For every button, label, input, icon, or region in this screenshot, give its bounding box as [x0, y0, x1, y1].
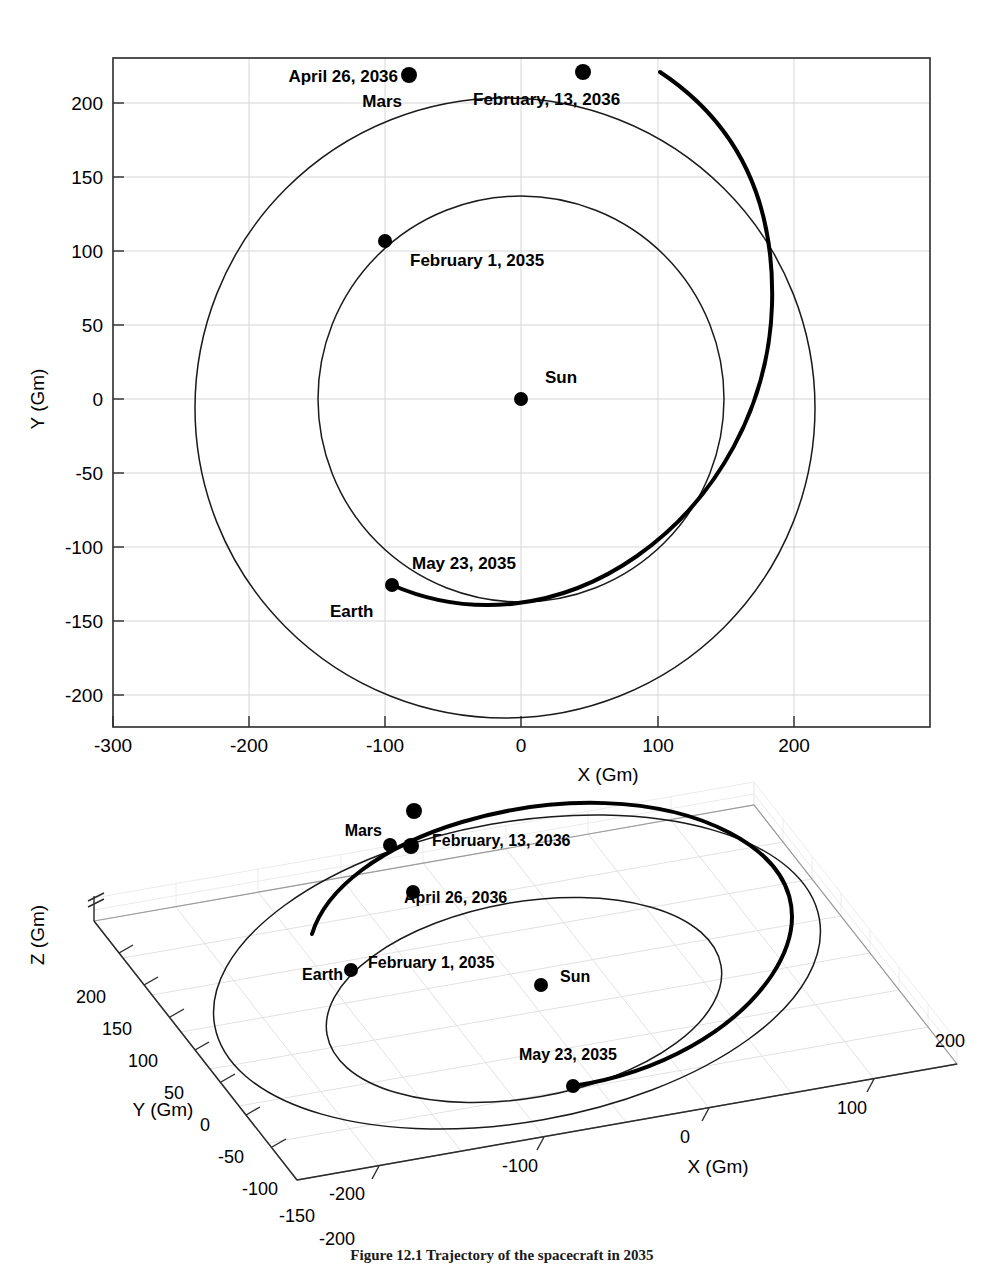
z-axis-label-3d: Z (Gm) — [27, 905, 48, 965]
x-tick-label-3d: -200 — [329, 1184, 365, 1204]
y-tick-label: 100 — [71, 241, 103, 262]
grid-3d-floor — [94, 805, 957, 1180]
plot-2d-ecliptic-projection: 200 150 100 50 0 -50 -100 -150 -200 -300… — [27, 58, 930, 785]
marker-mars-arrival-2d — [575, 64, 591, 80]
marker-earth-feb1-3d — [344, 963, 358, 977]
x-tick-label-3d: 200 — [935, 1031, 965, 1051]
label-may23-3d: May 23, 2035 — [519, 1046, 617, 1063]
x-axis-label-3d: X (Gm) — [687, 1156, 748, 1177]
y-tick-label-3d: 100 — [128, 1051, 158, 1071]
marker-mars-position-3d — [383, 838, 397, 852]
earth-orbit-curve-3d — [310, 869, 738, 1131]
marker-earth-departure-2d — [385, 578, 399, 592]
x-axis-label-2d: X (Gm) — [577, 764, 638, 785]
y-tick-label-3d: -200 — [319, 1229, 355, 1249]
y-tick-label-3d: 0 — [200, 1115, 210, 1135]
label-sun-2d: Sun — [545, 368, 577, 387]
y-tick-label: 0 — [92, 389, 103, 410]
marker-earth-departure-3d — [566, 1079, 580, 1093]
y-tick-label-3d: -50 — [218, 1147, 244, 1167]
label-may23-2d: May 23, 2035 — [412, 554, 516, 573]
y-tick-label-3d: -150 — [279, 1206, 315, 1226]
x-tick-label-3d: 100 — [837, 1098, 867, 1118]
plot-3d-view: 200 150 100 50 0 -50 -100 -150 -200 -200… — [27, 771, 965, 1249]
y-tick-label: -50 — [76, 463, 103, 484]
x-tick-label: 100 — [642, 735, 674, 756]
label-feb13-3d: February, 13, 2036 — [432, 832, 571, 849]
label-earth-2d: Earth — [330, 602, 373, 621]
label-mars-3d: Mars — [345, 822, 382, 839]
y-tick-marks-2d — [113, 103, 124, 695]
label-feb1-3d: February 1, 2035 — [368, 954, 494, 971]
marker-mars-body-3d — [403, 838, 419, 854]
y-tick-label-3d: 150 — [102, 1019, 132, 1039]
y-tick-label: -200 — [65, 685, 103, 706]
label-earth-3d: Earth — [302, 966, 343, 983]
label-feb1-2d: February 1, 2035 — [410, 251, 544, 270]
label-mars-2d: Mars — [362, 92, 402, 111]
x-tick-label: 0 — [516, 735, 527, 756]
x-tick-marks-2d — [113, 716, 794, 727]
marker-mars-april26-3d — [406, 885, 420, 899]
x-tick-label: -300 — [94, 735, 132, 756]
z-axis-3d — [88, 893, 104, 921]
y-tick-label: 150 — [71, 167, 103, 188]
marker-mars-arrival-3d — [406, 803, 422, 819]
marker-sun-2d — [514, 392, 528, 406]
y-tick-label: -100 — [65, 537, 103, 558]
y-tick-label-3d: 200 — [76, 987, 106, 1007]
x-tick-label-3d: 0 — [680, 1127, 690, 1147]
y-tick-label: 200 — [71, 93, 103, 114]
y-axis-label-3d: Y (Gm) — [133, 1099, 194, 1120]
floor-outline-3d — [94, 805, 957, 1180]
marker-sun-3d — [534, 978, 548, 992]
label-sun-3d: Sun — [560, 968, 590, 985]
marker-earth-feb1-2d — [378, 234, 392, 248]
mars-orbit-curve-2d — [195, 98, 815, 718]
grid-3d-walls — [94, 782, 957, 1064]
figure-caption: Figure 12.1 Trajectory of the spacecraft… — [0, 1247, 1004, 1264]
x-tick-label: -200 — [230, 735, 268, 756]
y-tick-label: 50 — [82, 315, 103, 336]
x-tick-label: 200 — [778, 735, 810, 756]
y-tick-label: -150 — [65, 611, 103, 632]
y-axis-label-2d: Y (Gm) — [27, 369, 48, 430]
label-april26-2d: April 26, 2036 — [288, 67, 398, 86]
y-tick-label-3d: -100 — [242, 1179, 278, 1199]
x-tick-label: -100 — [366, 735, 404, 756]
x-axis-line-3d — [297, 1064, 957, 1180]
marker-mars-position-2d — [401, 67, 417, 83]
x-tick-label-3d: -100 — [502, 1156, 538, 1176]
label-feb13-2d: February, 13, 2036 — [473, 90, 620, 109]
